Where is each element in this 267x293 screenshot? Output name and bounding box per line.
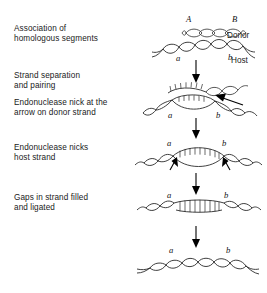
donor-rungs-panel2 (170, 82, 203, 91)
donor-nick-arrow (215, 94, 243, 106)
dna-illustrations (0, 0, 267, 293)
host-left-flank-panel2 (143, 100, 172, 115)
panel-4-gaps-filled (137, 200, 261, 212)
flow-arrow-3 (192, 173, 200, 195)
flow-arrow-1 (192, 60, 200, 83)
panel-3-host-nicks (135, 148, 262, 170)
panel-1-association (152, 29, 255, 58)
host-right-flank-panel3 (224, 154, 262, 165)
donor-strand-panel2 (168, 88, 206, 93)
host-right-flank-panel4 (224, 201, 261, 210)
host-right-flank-panel2 (215, 101, 257, 116)
panel-5-recombinant (137, 258, 259, 274)
donor-free-tail-panel2 (206, 86, 248, 96)
donor-helix-panel1 (182, 29, 246, 37)
host-nick-arrow-left (170, 157, 178, 170)
host-left-flank-panel4 (137, 201, 174, 210)
heteroduplex-bubble-panel3 (173, 148, 224, 167)
host-left-flank-panel3 (135, 154, 173, 165)
filled-top-strand-panel4 (174, 200, 224, 203)
flow-arrow-4 (192, 226, 200, 248)
host-nick-arrow-right (222, 157, 230, 170)
bubble-rungs-panel2 (179, 95, 204, 102)
flow-arrow-2 (192, 118, 200, 139)
host-helix-panel1 (152, 40, 255, 59)
host-bubble-panel2 (172, 95, 215, 109)
recombination-figure: Association of homologous segments Stran… (0, 0, 267, 293)
panel-2-strand-separation (143, 82, 257, 116)
filled-rungs-panel4 (180, 200, 219, 212)
